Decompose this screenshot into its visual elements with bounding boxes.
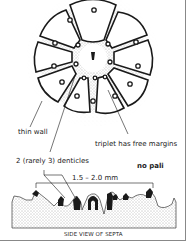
label-measurement: 1.5 – 2.0 mm	[72, 174, 118, 182]
label-thin-wall: thin wall	[18, 128, 48, 136]
label-triplet: triplet has free margins	[95, 140, 177, 148]
coral-illustration	[0, 0, 187, 242]
label-denticles: 2 (rarely 3) denticles	[16, 157, 89, 165]
figure-caption: SIDE VIEW OF SEPTA	[64, 231, 123, 237]
corallite-top-view	[27, 0, 159, 126]
label-no-pali: no pali	[137, 162, 164, 170]
septa-side-view	[12, 188, 176, 228]
